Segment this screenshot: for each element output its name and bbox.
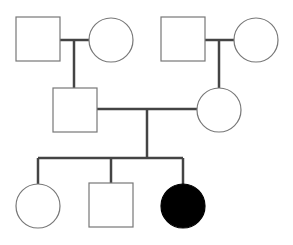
individual-III3-female-affected [161,184,205,228]
individual-I3-male [161,17,205,61]
individual-II1-male [53,88,97,132]
individual-I1-male [16,17,60,61]
pedigree-chart [0,0,293,245]
individual-III1-female [16,184,60,228]
individual-I2-female [89,18,133,62]
individual-II2-female [197,88,241,132]
individual-III2-male [89,183,133,227]
individual-I4-female [234,18,278,62]
